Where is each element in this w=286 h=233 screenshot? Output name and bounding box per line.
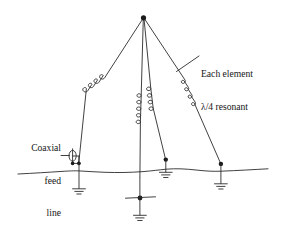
antenna-diagram: Each element λ/4 resonant Coaxial feed l… <box>0 0 286 233</box>
coaxial-feed-assembly <box>61 149 81 165</box>
antenna-wires <box>79 19 221 178</box>
element-base-dots <box>138 157 223 200</box>
wire-element-left <box>79 19 143 163</box>
ground-symbol-right <box>215 164 228 189</box>
ground-symbols <box>73 160 228 221</box>
wire-element-center <box>136 19 143 178</box>
ground-symbol-left-feed <box>73 164 86 195</box>
coaxial-feed-label-line1: Coaxial <box>3 143 61 154</box>
coaxial-feed-label-line3: line <box>3 208 61 219</box>
coax-terminal-dot-shield <box>71 162 75 166</box>
each-element-label-line2: λ/4 resonant <box>201 102 253 113</box>
each-element-label: Each element λ/4 resonant <box>201 48 253 134</box>
each-element-leader-line <box>177 56 200 72</box>
ground-symbol-center <box>134 178 147 221</box>
each-element-label-line1: Each element <box>201 69 253 80</box>
wire-element-center-right <box>144 19 166 160</box>
apex-junction-dot <box>141 15 146 20</box>
coaxial-feed-label: Coaxial feed line <box>3 122 61 233</box>
coaxial-feed-label-line2: feed <box>3 176 61 187</box>
